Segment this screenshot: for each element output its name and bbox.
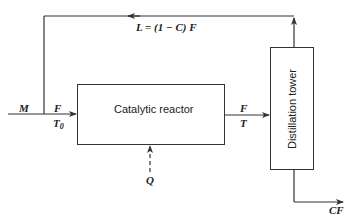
distillation-tower-label: Distillation tower: [286, 69, 298, 149]
outlet-flow-label: F: [240, 103, 247, 114]
feed-flow-label: F: [54, 103, 61, 114]
recycle-label: L = (1 − C) F: [136, 22, 197, 33]
catalytic-reactor-box: Catalytic reactor: [77, 84, 225, 145]
distillation-tower-box: Distillation tower: [270, 47, 314, 170]
makeup-label: M: [19, 103, 29, 114]
product-stream: [294, 169, 343, 202]
feed-temp-label: T0: [53, 118, 64, 131]
process-diagram: Catalytic reactor Distillation tower L =…: [0, 0, 353, 218]
catalytic-reactor-label: Catalytic reactor: [114, 103, 193, 115]
heat-label: Q: [146, 175, 154, 186]
product-label: CF: [329, 205, 344, 216]
outlet-temp-label: T: [240, 118, 247, 129]
